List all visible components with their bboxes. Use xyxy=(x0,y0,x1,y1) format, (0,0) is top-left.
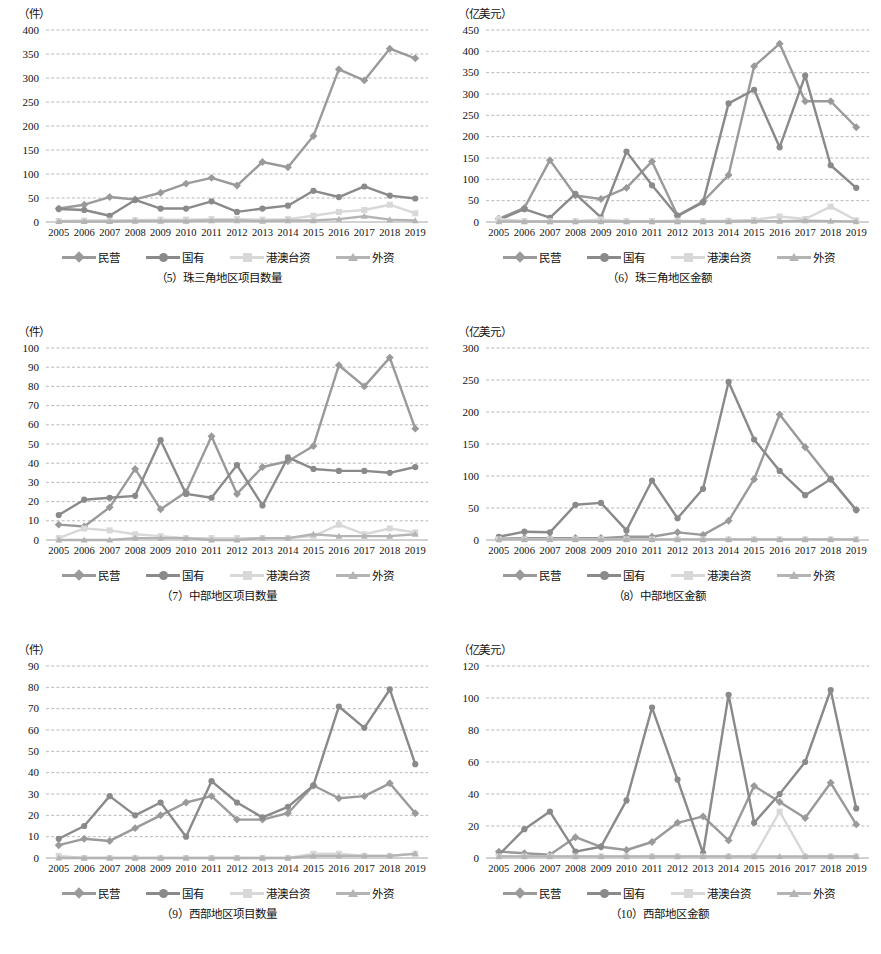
legend-item-民营[interactable]: 民营 xyxy=(503,249,561,265)
legend-marker-square-icon xyxy=(230,887,264,899)
legend-item-国有[interactable]: 国有 xyxy=(587,567,645,583)
y-axis-unit-label: （件） xyxy=(18,324,434,340)
legend-marker-diamond-icon xyxy=(503,251,537,263)
legend-item-港澳台资[interactable]: 港澳台资 xyxy=(230,885,310,901)
y-tick-label: 200 xyxy=(23,120,40,132)
legend-item-民营[interactable]: 民营 xyxy=(62,885,120,901)
legend-marker-diamond-icon xyxy=(62,251,96,263)
y-tick-label: 400 xyxy=(23,24,40,36)
legend-item-外资[interactable]: 外资 xyxy=(777,249,835,265)
chart-caption: （5）珠三角地区项目数量 xyxy=(4,269,434,285)
data-point xyxy=(361,468,367,474)
data-point xyxy=(828,476,834,482)
legend-marker-triangle-icon xyxy=(336,569,370,581)
legend-marker-circle-icon xyxy=(587,887,621,899)
y-axis-unit-label: （件） xyxy=(18,642,434,658)
data-point xyxy=(310,466,316,472)
legend-item-民营[interactable]: 民营 xyxy=(503,567,561,583)
legend-label: 国有 xyxy=(623,567,645,583)
data-point xyxy=(802,759,808,765)
y-tick-label: 50 xyxy=(468,194,480,206)
y-tick-label: 20 xyxy=(28,809,40,821)
x-tick-label: 2015 xyxy=(744,863,765,874)
legend-label: 港澳台资 xyxy=(707,249,751,265)
x-tick-label: 2016 xyxy=(769,863,790,874)
legend-item-外资[interactable]: 外资 xyxy=(777,567,835,583)
y-tick-label: 300 xyxy=(463,88,480,100)
series-民营 xyxy=(495,411,860,543)
chart-10-svg: 0204060801001202005200620072008200920102… xyxy=(444,658,875,880)
data-point xyxy=(131,824,139,832)
legend-item-民营[interactable]: 民营 xyxy=(62,249,120,265)
legend-item-港澳台资[interactable]: 港澳台资 xyxy=(230,567,310,583)
chart-caption: （6）珠三角地区金额 xyxy=(444,269,875,285)
x-tick-label: 2014 xyxy=(277,863,299,874)
y-tick-label: 40 xyxy=(28,766,40,778)
data-point xyxy=(623,149,629,155)
x-tick-label: 2016 xyxy=(769,227,790,238)
legend-item-国有[interactable]: 国有 xyxy=(587,885,645,901)
gridlines: 0102030405060708090100 xyxy=(23,342,429,546)
legend-item-港澳台资[interactable]: 港澳台资 xyxy=(671,249,751,265)
legend-label: 外资 xyxy=(372,885,394,901)
x-tick-label: 2017 xyxy=(354,227,375,238)
x-tick-label: 2009 xyxy=(150,863,171,874)
data-point xyxy=(387,686,393,692)
legend-item-国有[interactable]: 国有 xyxy=(587,249,645,265)
legend-item-民营[interactable]: 民营 xyxy=(62,567,120,583)
legend-item-国有[interactable]: 国有 xyxy=(146,249,204,265)
legend-label: 港澳台资 xyxy=(266,249,310,265)
legend-item-民营[interactable]: 民营 xyxy=(503,885,561,901)
x-tick-label: 2007 xyxy=(99,863,120,874)
data-point xyxy=(777,144,783,150)
legend-item-外资[interactable]: 外资 xyxy=(336,885,394,901)
data-point xyxy=(285,203,291,209)
legend-label: 外资 xyxy=(813,567,835,583)
legend-marker-triangle-icon xyxy=(777,887,811,899)
x-tick-label: 2019 xyxy=(846,863,867,874)
data-point xyxy=(107,793,113,799)
data-point xyxy=(387,193,393,199)
x-tick-label: 2008 xyxy=(565,227,586,238)
y-tick-label: 0 xyxy=(34,534,40,546)
data-point xyxy=(208,198,214,204)
chart-caption: （10）西部地区金额 xyxy=(444,905,875,921)
x-tick-label: 2010 xyxy=(176,863,197,874)
legend-marker-square-icon xyxy=(671,887,705,899)
legend-item-外资[interactable]: 外资 xyxy=(777,885,835,901)
x-tick-label: 2014 xyxy=(718,863,740,874)
legend-label: 外资 xyxy=(372,249,394,265)
legend-item-港澳台资[interactable]: 港澳台资 xyxy=(230,249,310,265)
data-point xyxy=(751,820,757,826)
legend-item-国有[interactable]: 国有 xyxy=(146,567,204,583)
legend: 民营国有港澳台资外资 xyxy=(4,564,434,586)
y-tick-label: 10 xyxy=(28,830,40,842)
legend-item-港澳台资[interactable]: 港澳台资 xyxy=(671,885,751,901)
legend-item-国有[interactable]: 国有 xyxy=(146,885,204,901)
data-point xyxy=(674,777,680,783)
data-point xyxy=(107,495,113,501)
data-point xyxy=(310,782,316,788)
legend: 民营国有港澳台资外资 xyxy=(4,246,434,268)
data-point xyxy=(208,495,214,501)
legend-item-港澳台资[interactable]: 港澳台资 xyxy=(671,567,751,583)
legend-marker-square-icon xyxy=(230,569,264,581)
y-tick-label: 30 xyxy=(28,788,40,800)
data-point xyxy=(598,844,604,850)
x-tick-label: 2006 xyxy=(74,863,95,874)
legend-item-外资[interactable]: 外资 xyxy=(336,567,394,583)
y-tick-label: 60 xyxy=(468,756,480,768)
legend-item-外资[interactable]: 外资 xyxy=(336,249,394,265)
x-tick-label: 2014 xyxy=(718,227,740,238)
x-tick-label: 2009 xyxy=(150,545,171,556)
data-point xyxy=(802,492,808,498)
plot-area: 0204060801001202005200620072008200920102… xyxy=(444,658,875,880)
y-tick-label: 50 xyxy=(468,502,480,514)
data-point xyxy=(157,189,165,197)
x-tick-label: 2017 xyxy=(795,227,816,238)
legend-marker-diamond-icon xyxy=(62,569,96,581)
x-axis-labels: 2005200620072008200920102011201220132014… xyxy=(488,227,866,238)
x-tick-label: 2011 xyxy=(201,863,222,874)
legend-label: 国有 xyxy=(623,885,645,901)
x-tick-label: 2010 xyxy=(176,545,197,556)
